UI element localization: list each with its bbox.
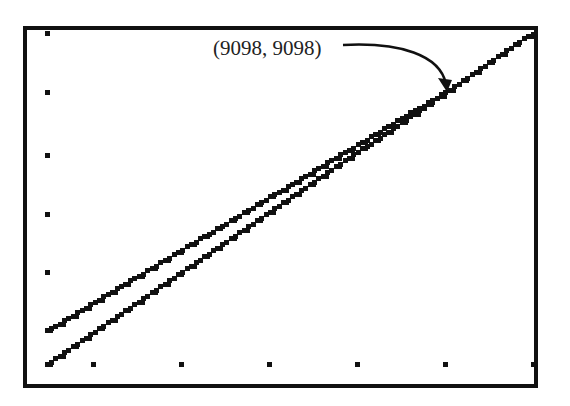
annotation-arrow: [343, 45, 446, 84]
x-axis-ticks: [45, 362, 536, 367]
annotation-label: (9098, 9098): [213, 36, 322, 61]
upper-line-series: [45, 32, 536, 333]
lower-line-series: [45, 32, 536, 367]
y-axis-ticks: [45, 31, 50, 275]
